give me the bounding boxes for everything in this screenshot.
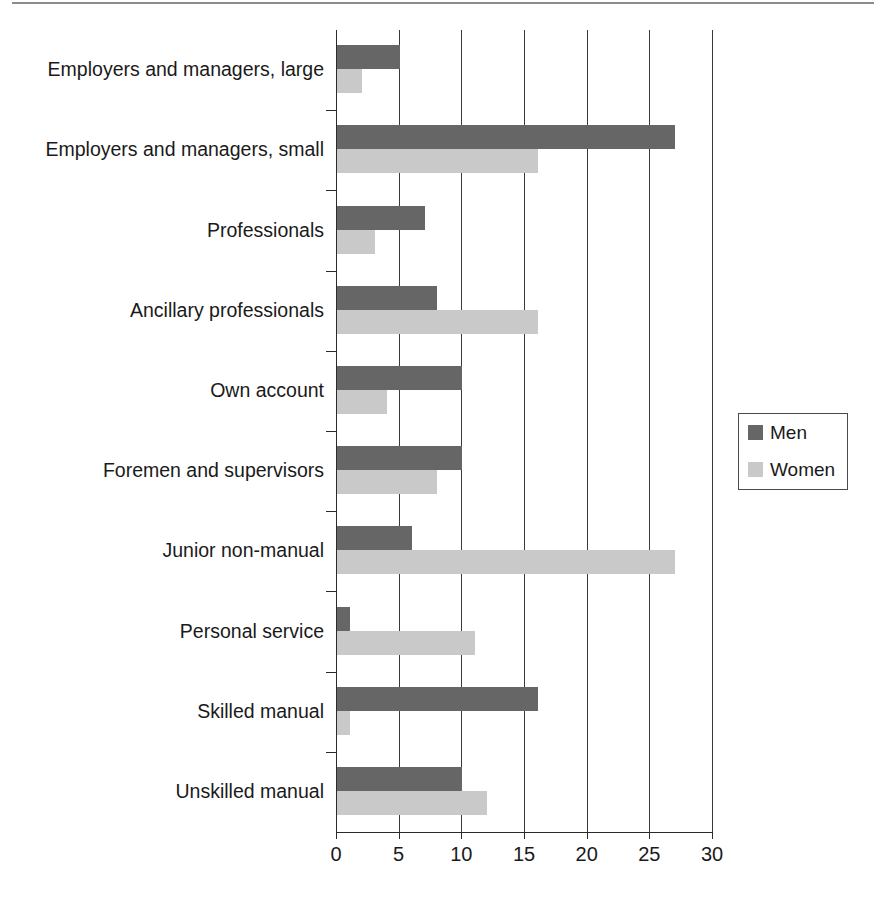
bar-men-7 <box>337 607 350 631</box>
x-tick-label-20: 20 <box>557 843 617 866</box>
bar-women-4 <box>337 390 387 414</box>
bar-men-4 <box>337 366 462 390</box>
category-label-5: Foremen and supervisors <box>0 461 324 481</box>
category-label-6: Junior non-manual <box>0 541 324 561</box>
gridline-20 <box>587 30 588 832</box>
y-tick-4 <box>326 351 336 352</box>
x-tick-15 <box>524 832 525 839</box>
bar-men-3 <box>337 286 437 310</box>
bar-women-2 <box>337 230 375 254</box>
category-label-4: Own account <box>0 381 324 401</box>
y-tick-2 <box>326 190 336 191</box>
y-tick-3 <box>326 271 336 272</box>
x-tick-label-30: 30 <box>682 843 742 866</box>
y-tick-9 <box>326 752 336 753</box>
bar-women-3 <box>337 310 538 334</box>
y-tick-1 <box>326 110 336 111</box>
x-tick-0 <box>336 832 337 839</box>
category-label-7: Personal service <box>0 622 324 642</box>
x-tick-30 <box>712 832 713 839</box>
y-tick-7 <box>326 591 336 592</box>
bar-men-0 <box>337 45 400 69</box>
legend-swatch-women <box>748 462 763 477</box>
x-tick-label-25: 25 <box>619 843 679 866</box>
chart-figure: 051015202530 Employers and managers, lar… <box>0 0 882 900</box>
y-tick-8 <box>326 672 336 673</box>
chart-legend: Men Women <box>738 413 848 490</box>
bar-women-5 <box>337 470 437 494</box>
bar-men-6 <box>337 526 412 550</box>
bar-women-7 <box>337 631 475 655</box>
category-label-3: Ancillary professionals <box>0 301 324 321</box>
category-label-8: Skilled manual <box>0 702 324 722</box>
bar-men-1 <box>337 125 675 149</box>
bar-women-0 <box>337 69 362 93</box>
legend-entry-women: Women <box>748 460 835 479</box>
gridline-30 <box>712 30 713 832</box>
x-tick-label-0: 0 <box>306 843 366 866</box>
legend-label-men: Men <box>770 423 807 442</box>
bar-women-1 <box>337 149 538 173</box>
legend-swatch-men <box>748 425 763 440</box>
x-tick-5 <box>399 832 400 839</box>
bar-men-5 <box>337 446 462 470</box>
bar-men-2 <box>337 206 425 230</box>
y-tick-6 <box>326 511 336 512</box>
x-tick-label-5: 5 <box>369 843 429 866</box>
bar-men-8 <box>337 687 538 711</box>
bar-women-8 <box>337 711 350 735</box>
y-tick-5 <box>326 431 336 432</box>
category-label-2: Professionals <box>0 221 324 241</box>
category-label-0: Employers and managers, large <box>0 60 324 80</box>
x-tick-25 <box>649 832 650 839</box>
x-tick-10 <box>461 832 462 839</box>
bar-men-9 <box>337 767 462 791</box>
category-label-9: Unskilled manual <box>0 782 324 802</box>
category-label-1: Employers and managers, small <box>0 140 324 160</box>
gridline-25 <box>649 30 650 832</box>
top-divider-rule <box>12 2 874 4</box>
legend-entry-men: Men <box>748 423 807 442</box>
bar-women-6 <box>337 550 675 574</box>
bar-women-9 <box>337 791 487 815</box>
x-tick-label-10: 10 <box>431 843 491 866</box>
x-tick-20 <box>587 832 588 839</box>
x-tick-label-15: 15 <box>494 843 554 866</box>
legend-label-women: Women <box>770 460 835 479</box>
